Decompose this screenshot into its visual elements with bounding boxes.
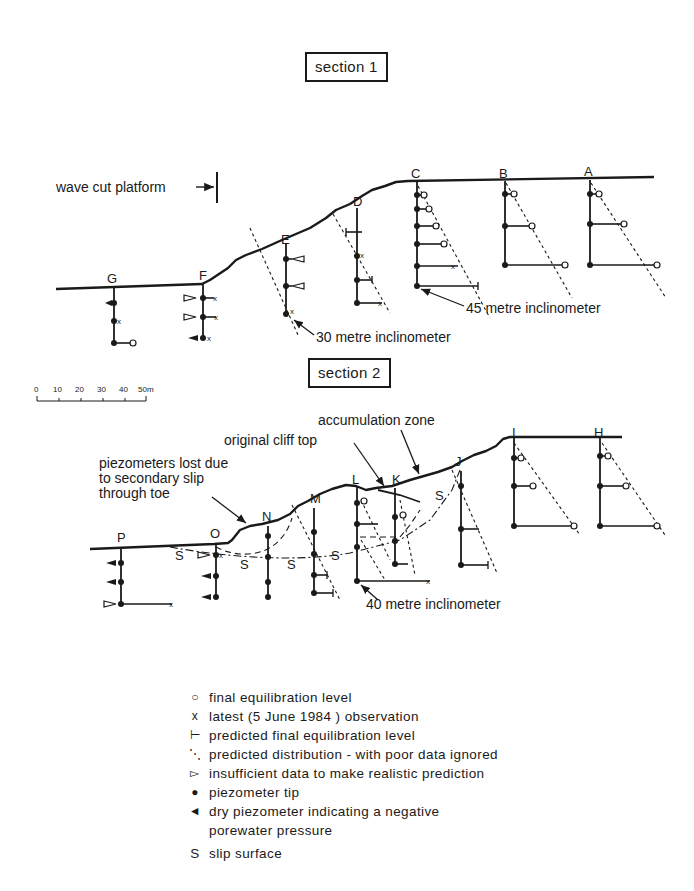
borehole-label: F [199, 268, 207, 283]
open-triangle-icon: ▻ [185, 764, 205, 783]
legend-label: insufficient data to make realistic pred… [205, 764, 485, 783]
filled-triangle-icon: ◄ [185, 802, 205, 821]
slip-letter-icon: S [185, 844, 205, 863]
borehole-label: P [117, 530, 126, 545]
borehole-o: O x [198, 526, 223, 600]
filled-dot-icon: ● [185, 783, 205, 802]
legend-label: dry piezometer indicating a negative [205, 802, 440, 821]
legend-label: predicted distribution - with poor data … [205, 745, 498, 764]
scale-tick-label: 50m [138, 385, 154, 394]
borehole-label: A [584, 164, 593, 179]
borehole-a: A [584, 164, 666, 298]
svg-text:x: x [214, 313, 218, 322]
original-cliff-top-label: original cliff top [224, 432, 317, 448]
original-cliff-top-line [378, 490, 420, 502]
wave-cut-platform-marker: wave cut platform [55, 172, 217, 203]
borehole-label: G [107, 271, 117, 286]
slip-label: S [175, 548, 184, 563]
legend: ○ final equilibration level x latest (5 … [185, 688, 605, 863]
svg-text:x: x [169, 600, 173, 609]
legend-item: porewater pressure [185, 821, 605, 840]
borehole-e: E x [250, 228, 304, 335]
borehole-label: H [594, 425, 603, 440]
borehole-i: I [511, 425, 580, 535]
borehole-l: L x 40 metre inclinometer [352, 472, 501, 612]
legend-label-continued: porewater pressure [205, 821, 333, 840]
svg-text:x: x [360, 251, 364, 260]
section-2: S S S S S P x O x N [90, 412, 665, 612]
dashed-line-icon: ⋱ [185, 745, 205, 764]
legend-item: ⋱ predicted distribution - with poor dat… [185, 745, 605, 764]
slip-label: S [287, 557, 296, 572]
svg-text:x: x [207, 334, 211, 343]
borehole-m: M [292, 491, 340, 600]
borehole-label: N [262, 509, 271, 524]
borehole-label: M [310, 491, 321, 506]
section-1: wave cut platform G x F x x [55, 164, 666, 346]
legend-label: piezometer tip [205, 783, 299, 802]
borehole-k: K [392, 472, 415, 575]
scale-bar: 0 10 20 30 40 50m [34, 385, 154, 401]
legend-item: ● piezometer tip [185, 783, 605, 802]
borehole-g: G x [105, 271, 136, 346]
legend-item: S slip surface [185, 844, 605, 863]
piezometers-lost-label-line-2: to secondary slip [99, 470, 204, 486]
slip-label: S [240, 557, 249, 572]
borehole-p: P x [104, 530, 173, 609]
borehole-label: C [411, 166, 420, 181]
borehole-h: H [594, 425, 665, 535]
scale-tick-label: 0 [34, 385, 39, 394]
scale-tick-label: 10 [53, 385, 62, 394]
borehole-c: C x 45 metre inclinometer [411, 166, 601, 318]
legend-label: slip surface [205, 844, 282, 863]
slip-label: S [435, 488, 444, 503]
inclinometer-30-label: 30 metre inclinometer [316, 329, 451, 345]
legend-label: predicted final equilibration level [205, 726, 415, 745]
svg-text:x: x [219, 551, 223, 560]
legend-item: ▻ insufficient data to make realistic pr… [185, 764, 605, 783]
legend-label: latest (5 June 1984 ) observation [205, 707, 419, 726]
legend-label: final equilibration level [205, 688, 352, 707]
borehole-label: L [352, 472, 359, 487]
piezometers-lost-label-line-1: piezometers lost due [99, 455, 228, 471]
svg-text:x: x [290, 307, 294, 316]
cross-icon: x [185, 707, 205, 726]
piezometers-lost-arrow [212, 497, 246, 523]
accumulation-zone-label: accumulation zone [318, 412, 435, 428]
legend-item: ○ final equilibration level [185, 688, 605, 707]
borehole-b: B [499, 166, 572, 298]
svg-text:x: x [426, 577, 430, 586]
wave-cut-platform-label: wave cut platform [55, 179, 166, 195]
borehole-n: N [262, 509, 271, 600]
dry-piezometer-icon [105, 300, 112, 306]
svg-text:x: x [451, 262, 455, 271]
svg-text:x: x [213, 294, 217, 303]
borehole-label: D [353, 194, 362, 209]
secondary-slip-surface [216, 518, 292, 554]
accumulation-zone-arrow [401, 430, 419, 474]
legend-item: x latest (5 June 1984 ) observation [185, 707, 605, 726]
legend-item: ◄ dry piezometer indicating a negative [185, 802, 605, 821]
borehole-label: J [455, 454, 462, 469]
slip-label: S [331, 548, 340, 563]
inclinometer-40-label: 40 metre inclinometer [366, 596, 501, 612]
scale-tick-label: 40 [119, 385, 128, 394]
scale-tick-label: 20 [75, 385, 84, 394]
piezometers-lost-label-line-3: through toe [99, 485, 170, 501]
legend-item: ⊢ predicted final equilibration level [185, 726, 605, 745]
insufficient-data-icon [184, 295, 196, 301]
svg-text:x: x [117, 317, 121, 326]
borehole-label: B [499, 166, 508, 181]
borehole-label: O [210, 526, 220, 541]
inclinometer-45-label: 45 metre inclinometer [466, 300, 601, 316]
svg-text:x: x [378, 299, 382, 308]
borehole-label: K [392, 472, 401, 487]
borehole-label: I [512, 425, 516, 440]
inclinometer-pointer-arrow [421, 289, 464, 306]
borehole-d: D x x [333, 194, 390, 313]
scale-tick-label: 30 [97, 385, 106, 394]
bar-tick-icon: ⊢ [185, 726, 205, 745]
open-circle-icon: ○ [185, 688, 205, 707]
